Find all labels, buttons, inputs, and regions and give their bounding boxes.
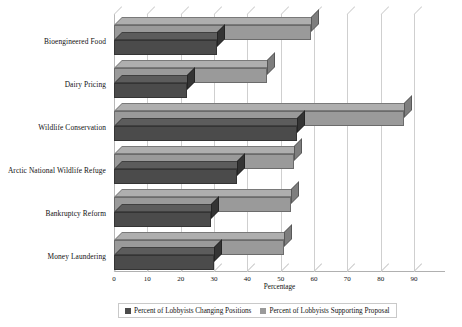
bar-chart: Bioengineered FoodDairy PricingWildlife … <box>0 0 462 327</box>
category-label: Dairy Pricing <box>0 80 106 89</box>
plot-area <box>114 14 445 272</box>
bar-top-face <box>114 103 412 111</box>
bar-top-face <box>114 32 225 40</box>
bar-side-face <box>311 9 319 32</box>
x-tick-label: 30 <box>211 275 218 283</box>
bar-changing-positions <box>114 169 237 184</box>
bar-group <box>114 143 445 186</box>
legend-label: Percent of Lobbyists Supporting Proposal <box>269 307 389 315</box>
bar-group <box>114 229 445 272</box>
bar-group <box>114 57 445 100</box>
chart-legend: Percent of Lobbyists Changing Positions … <box>118 303 397 318</box>
x-tick-label: 70 <box>344 275 351 283</box>
x-tick-label: 0 <box>112 275 116 283</box>
category-label: Bankruptcy Reform <box>0 209 106 218</box>
bar-front-face <box>114 126 297 141</box>
bar-front-face <box>114 83 187 98</box>
bar-changing-positions <box>114 83 187 98</box>
x-axis-title: Percentage <box>114 283 445 291</box>
bar-top-face <box>114 232 292 240</box>
category-label: Bioengineered Food <box>0 37 106 46</box>
bar-group <box>114 100 445 143</box>
legend-label: Percent of Lobbyists Changing Positions <box>134 307 251 315</box>
category-label: Arctic National Wildlife Refuge <box>0 166 106 175</box>
bar-top-face <box>114 189 299 197</box>
x-tick-label: 20 <box>177 275 184 283</box>
bar-top-face <box>114 204 219 212</box>
bar-top-face <box>114 118 305 126</box>
bar-front-face <box>114 40 217 55</box>
bar-changing-positions <box>114 40 217 55</box>
bar-top-face <box>114 161 245 169</box>
bar-changing-positions <box>114 255 214 270</box>
bar-front-face <box>114 212 211 227</box>
bar-top-face <box>114 75 195 83</box>
bar-top-face <box>114 247 222 255</box>
bar-top-face <box>114 146 302 154</box>
bar-front-face <box>114 169 237 184</box>
x-tick-label: 60 <box>311 275 318 283</box>
bar-changing-positions <box>114 126 297 141</box>
x-tick-label: 50 <box>277 275 284 283</box>
legend-item-changing-positions: Percent of Lobbyists Changing Positions <box>125 307 251 315</box>
legend-swatch-icon <box>125 308 131 314</box>
bar-top-face <box>114 17 319 25</box>
legend-swatch-icon <box>260 308 266 314</box>
x-tick-label: 10 <box>144 275 151 283</box>
bar-front-face <box>114 255 214 270</box>
bar-group <box>114 14 445 57</box>
bar-changing-positions <box>114 212 211 227</box>
x-tick-label: 80 <box>377 275 384 283</box>
category-label: Wildlife Conservation <box>0 123 106 132</box>
category-label: Money Laundering <box>0 252 106 261</box>
bar-group <box>114 186 445 229</box>
legend-item-supporting-proposal: Percent of Lobbyists Supporting Proposal <box>260 307 389 315</box>
category-axis-labels: Bioengineered FoodDairy PricingWildlife … <box>0 12 108 274</box>
x-tick-label: 90 <box>411 275 418 283</box>
x-tick-label: 40 <box>244 275 251 283</box>
